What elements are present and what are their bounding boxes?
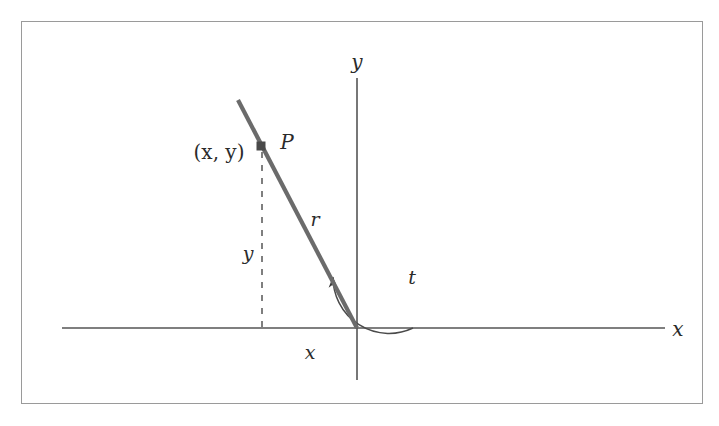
angle-label: t bbox=[408, 268, 416, 287]
polar-coordinates-figure: y x P (x, y) r t y x bbox=[0, 0, 719, 426]
radius-ray bbox=[238, 100, 357, 328]
radius-label: r bbox=[310, 210, 319, 229]
horizontal-leg-label: x bbox=[305, 343, 316, 362]
x-axis-label: x bbox=[672, 319, 683, 339]
point-coordinates-label: (x, y) bbox=[194, 142, 245, 162]
point-marker bbox=[257, 142, 266, 151]
point-label-p: P bbox=[280, 132, 293, 152]
y-axis-label: y bbox=[351, 52, 362, 72]
vertical-leg-label: y bbox=[243, 244, 254, 263]
